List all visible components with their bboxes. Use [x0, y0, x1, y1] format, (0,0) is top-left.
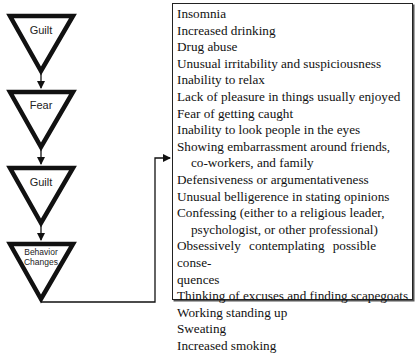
list-item: Insomnia [177, 6, 412, 23]
list-item: Increased drinking [177, 23, 412, 40]
stage-label-guilt-1: Guilt [11, 25, 71, 36]
stage-label-fear: Fear [11, 100, 71, 111]
list-item: Inability to look people in the eyes [177, 122, 412, 139]
item-text: Confessing (either to a religious leader… [177, 205, 384, 220]
item-continuation: quences [177, 272, 412, 289]
list-item: Drug abuse [177, 39, 412, 56]
list-item: Sweating [177, 321, 412, 338]
item-continuation: psychologist, or other professional) [177, 222, 412, 239]
list-item: Inability to relax [177, 72, 412, 89]
list-item: Thinking of excuses and finding scapegoa… [177, 288, 412, 305]
list-item: Obsessively contemplating possible conse… [177, 238, 412, 288]
list-item: Showing embarrassment around friends,co-… [177, 139, 412, 172]
item-continuation: co-workers, and family [177, 155, 412, 172]
stage-label-behavior-changes: Behavior Changes [11, 247, 71, 267]
symptoms-list: Insomnia Increased drinking Drug abuse U… [177, 6, 412, 354]
list-item: Confessing (either to a religious leader… [177, 205, 412, 238]
list-item: Lack of pleasure in things usually enjoy… [177, 89, 412, 106]
list-item: Working standing up [177, 305, 412, 322]
stage-label-guilt-2: Guilt [11, 177, 71, 188]
list-item: Defensiveness or argumentativeness [177, 172, 412, 189]
symptoms-box: Insomnia Increased drinking Drug abuse U… [172, 3, 413, 300]
label-line-1: Behavior [11, 247, 71, 257]
list-item: Unusual irritability and suspiciousness [177, 56, 412, 73]
list-item: Increased smoking [177, 338, 412, 354]
item-text: Showing embarrassment around friends, [177, 139, 390, 154]
item-text: Obsessively contemplating possible conse… [177, 238, 376, 270]
label-line-2: Changes [11, 257, 71, 267]
list-item: Unusual belligerence in stating opinions [177, 189, 412, 206]
list-item: Fear of getting caught [177, 106, 412, 123]
